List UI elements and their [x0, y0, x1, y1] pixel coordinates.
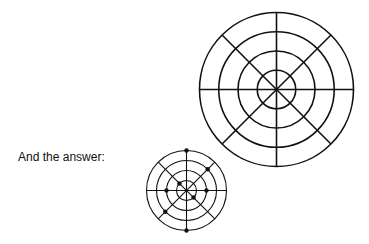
marked-point: [204, 188, 208, 192]
marked-point: [184, 148, 188, 152]
marked-point: [206, 167, 210, 171]
marked-point: [177, 181, 181, 185]
marked-point: [191, 195, 195, 199]
marked-point: [164, 188, 168, 192]
answer-polar-grid: [147, 148, 227, 232]
marked-point: [163, 210, 167, 214]
marked-point: [184, 228, 188, 232]
diagram-canvas: [0, 0, 369, 244]
puzzle-polar-grid: [200, 13, 354, 167]
